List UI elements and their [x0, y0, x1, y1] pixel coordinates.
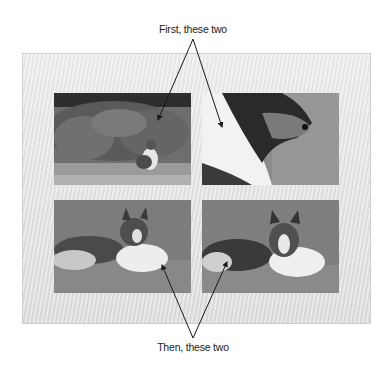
photo-dog-lying-front-image [202, 200, 339, 293]
photo-dog-profile [202, 93, 339, 185]
caption-then-these-two: Then, these two [0, 341, 386, 353]
caption-first-these-two: First, these two [0, 23, 386, 35]
photo-dog-profile-image [202, 93, 339, 185]
photo-dog-lying-left [54, 200, 191, 293]
photo-dog-lying-front [202, 200, 339, 293]
photo-dog-bush [54, 93, 191, 185]
photo-dog-lying-left-image [54, 200, 191, 293]
photo-dog-bush-image [54, 93, 191, 185]
